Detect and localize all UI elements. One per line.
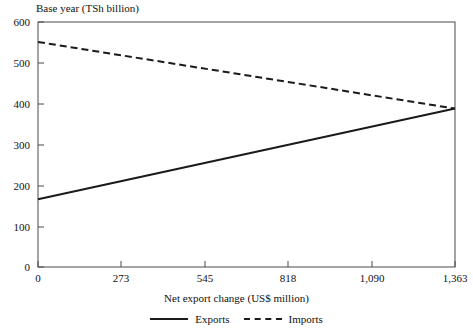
y-tick-label-200: 200 xyxy=(0,180,30,192)
legend-swatch-solid-icon xyxy=(150,318,188,320)
x-tick-label-273: 273 xyxy=(91,272,151,284)
y-tick-label-400: 400 xyxy=(0,98,30,110)
chart-legend: Exports Imports xyxy=(0,313,473,325)
x-axis-title: Net export change (US$ million) xyxy=(0,292,473,305)
legend-label-exports: Exports xyxy=(195,313,229,325)
legend-item-exports: Exports xyxy=(150,313,229,325)
y-tick-label-300: 300 xyxy=(0,139,30,151)
x-tick-label-818: 818 xyxy=(258,272,318,284)
legend-swatch-dashed-icon xyxy=(244,318,282,320)
plot-area xyxy=(0,0,473,334)
x-tick-label-1363: 1,363 xyxy=(425,272,473,284)
legend-item-imports: Imports xyxy=(244,313,323,325)
y-tick-label-500: 500 xyxy=(0,57,30,69)
y-tick-label-600: 600 xyxy=(0,16,30,28)
line-chart: Base year (TSh billion) 600 50 xyxy=(0,0,473,334)
legend-label-imports: Imports xyxy=(289,313,323,325)
x-tick-label-1090: 1,090 xyxy=(342,272,402,284)
x-tick-label-0: 0 xyxy=(8,272,68,284)
x-tick-label-545: 545 xyxy=(175,272,235,284)
plot-frame xyxy=(38,22,455,267)
y-tick-label-100: 100 xyxy=(0,221,30,233)
